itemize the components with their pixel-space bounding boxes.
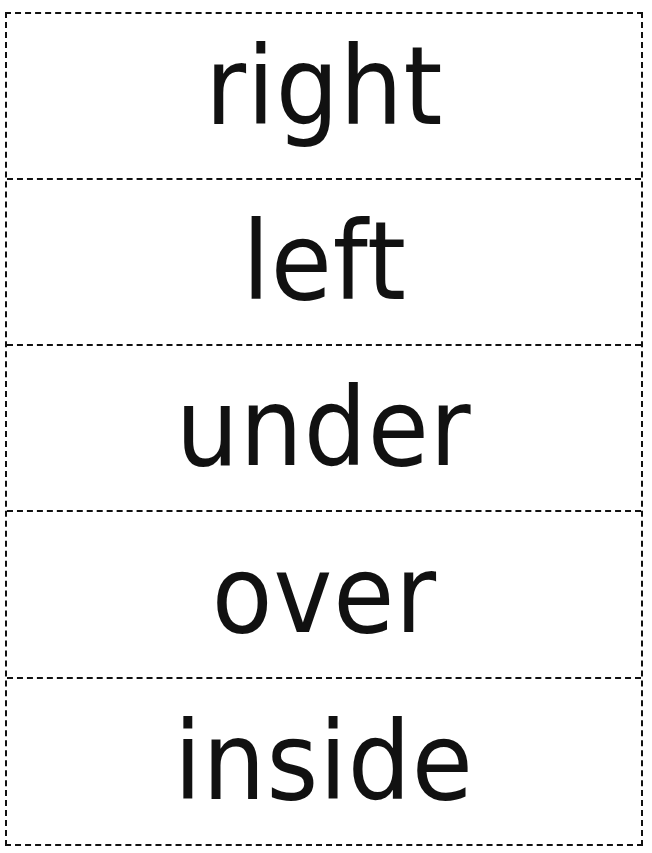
word-card-sheet: right left under over inside <box>5 12 643 846</box>
word-card-left: left <box>7 180 641 346</box>
word-card-over: over <box>7 512 641 679</box>
word-text: under <box>176 374 472 482</box>
word-text: right <box>205 33 443 141</box>
word-card-right: right <box>7 14 641 180</box>
word-card-under: under <box>7 346 641 512</box>
word-text: inside <box>174 708 474 816</box>
word-text: over <box>211 541 436 649</box>
word-card-inside: inside <box>7 679 641 845</box>
word-text: left <box>242 208 407 316</box>
